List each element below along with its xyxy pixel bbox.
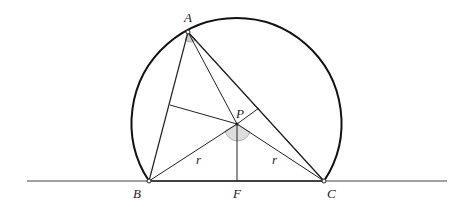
label-r-pc: r — [272, 153, 277, 166]
point-a — [186, 30, 190, 34]
perp-p-to-ab — [170, 105, 237, 124]
side-ab — [149, 32, 188, 181]
diagram: A P B F C r r — [0, 0, 470, 207]
label-b: B — [133, 187, 141, 200]
point-b — [147, 179, 151, 183]
point-c — [322, 179, 326, 183]
label-c: C — [327, 187, 336, 200]
label-a: A — [184, 11, 192, 24]
label-f: F — [233, 187, 241, 200]
segment-ap-extended — [188, 32, 324, 181]
geometry-figure — [0, 0, 470, 207]
label-r-pb: r — [196, 153, 201, 166]
label-p: P — [236, 107, 244, 120]
point-p — [236, 123, 239, 126]
